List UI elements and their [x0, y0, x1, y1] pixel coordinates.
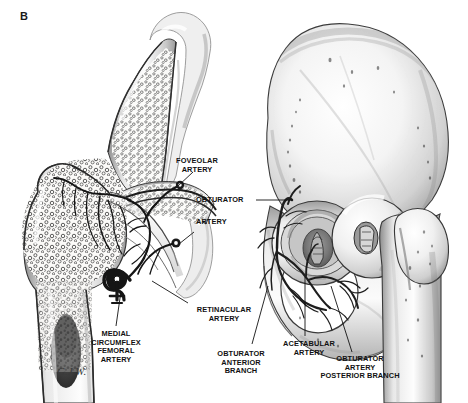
label-foveolar-artery: FOVEOLAR ARTERY	[168, 157, 226, 174]
label-obturator-anterior-branch: OBTURATOR ANTERIOR BRANCH	[210, 350, 272, 376]
fovea-capitis	[354, 222, 378, 254]
label-obturator-artery-line1: OBTURATOR	[196, 196, 258, 205]
label-retinacular-artery: RETINACULAR ARTERY	[190, 306, 258, 323]
label-obturator-artery-line2: ARTERY	[196, 218, 246, 227]
anatomical-figure-panel: B FOVEOLAR ARTERY OBTURATOR ARTERY RETIN…	[0, 0, 468, 403]
label-medial-circumflex-femoral-artery: MEDIAL CIRCUMFLEX FEMORAL ARTERY	[84, 330, 148, 364]
label-obturator-artery-posterior-branch: OBTURATOR ARTERY POSTERIOR BRANCH	[310, 355, 410, 381]
panel-letter: B	[20, 10, 28, 22]
artist-signature: G.J.W.	[57, 365, 86, 377]
